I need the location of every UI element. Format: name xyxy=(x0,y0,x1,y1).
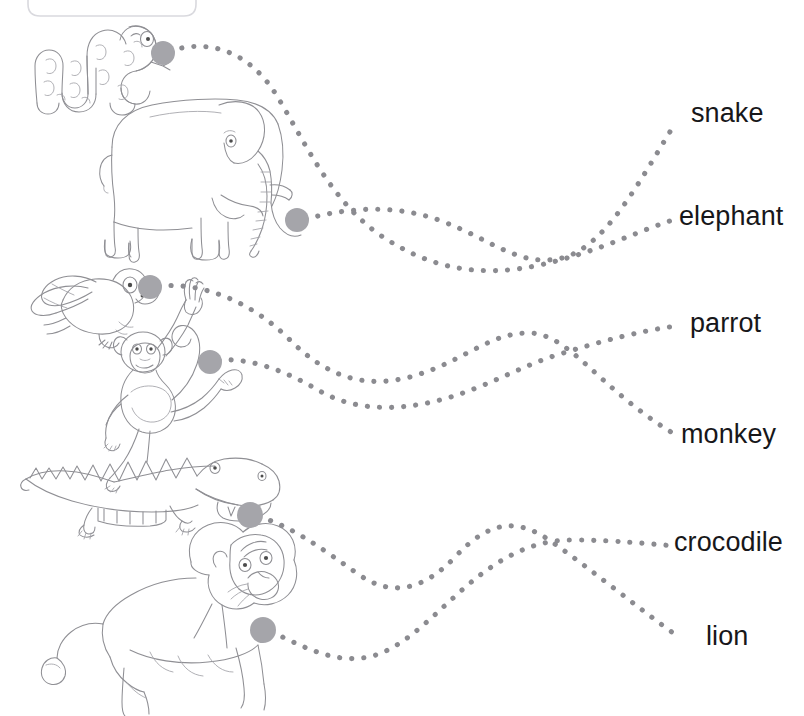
word-label-parrot[interactable]: parrot xyxy=(690,310,761,337)
anchor-dots xyxy=(138,41,309,643)
connector-lines xyxy=(159,46,676,658)
word-label-monkey[interactable]: monkey xyxy=(681,421,776,448)
anchor-dot-elephant[interactable] xyxy=(285,208,309,232)
anchor-dot-lion[interactable] xyxy=(250,617,276,643)
word-label-lion[interactable]: lion xyxy=(706,623,748,650)
worksheet-canvas xyxy=(0,0,804,716)
word-label-elephant[interactable]: elephant xyxy=(679,203,783,230)
connector-elephant-to-snake[interactable] xyxy=(306,122,676,260)
anchor-dot-crocodile[interactable] xyxy=(237,502,263,528)
title-box xyxy=(28,0,196,16)
anchor-dot-snake[interactable] xyxy=(151,41,175,65)
snake-illustration xyxy=(35,26,170,115)
elephant-illustration xyxy=(100,99,301,262)
anchor-dot-parrot[interactable] xyxy=(138,275,162,299)
word-label-snake[interactable]: snake xyxy=(691,100,764,127)
anchor-dot-monkey[interactable] xyxy=(198,350,222,374)
connector-snake-to-elephant[interactable] xyxy=(170,46,676,270)
connector-parrot-to-monkey[interactable] xyxy=(159,285,676,435)
monkey-illustration xyxy=(104,278,242,493)
crocodile-illustration xyxy=(21,458,280,539)
worksheet-page: snake elephant parrot monkey crocodile l… xyxy=(0,0,804,716)
word-label-crocodile[interactable]: crocodile xyxy=(674,529,783,556)
connector-crocodile-to-lion[interactable] xyxy=(259,517,676,635)
